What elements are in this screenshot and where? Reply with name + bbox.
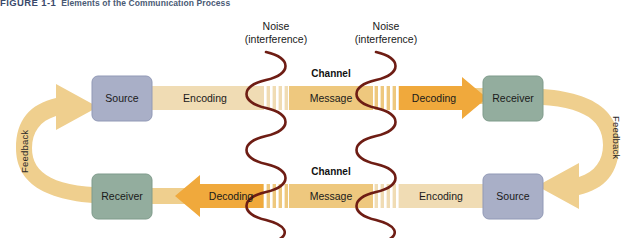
feedback-label-left: Feedback xyxy=(19,130,30,173)
diagram-stage: Noise (interference) Noise (interference… xyxy=(0,8,635,238)
figure-container: FIGURE 1-1Elements of the Communication … xyxy=(0,0,635,238)
figure-number: FIGURE 1-1 xyxy=(0,0,56,8)
noise-label-1-line2: (interference) xyxy=(245,33,307,45)
noise-label-2-line2: (interference) xyxy=(355,33,417,45)
top-decoding-label: Decoding xyxy=(399,92,469,104)
noise-label-2: Noise (interference) xyxy=(306,20,466,46)
top-receiver-label: Receiver xyxy=(483,92,543,104)
noise-wave-1 xyxy=(247,52,286,238)
top-source-label: Source xyxy=(92,92,152,104)
bottom-source-label: Source xyxy=(483,190,543,202)
bottom-encoding-label: Encoding xyxy=(400,190,482,202)
bottom-decoding-label: Decoding xyxy=(196,190,266,202)
top-message-label: Message xyxy=(271,92,391,104)
top-channel-label: Channel xyxy=(271,68,391,79)
feedback-label-right: Feedback xyxy=(611,116,622,159)
noise-label-1-line1: Noise xyxy=(263,20,290,32)
figure-title: Elements of the Communication Process xyxy=(61,0,230,8)
bottom-receiver-label: Receiver xyxy=(92,190,152,202)
top-encoding-label: Encoding xyxy=(150,92,260,104)
noise-wave-2 xyxy=(357,52,396,238)
bottom-message-label: Message xyxy=(271,190,391,202)
bottom-channel-label: Channel xyxy=(271,166,391,177)
noise-label-2-line1: Noise xyxy=(373,20,400,32)
